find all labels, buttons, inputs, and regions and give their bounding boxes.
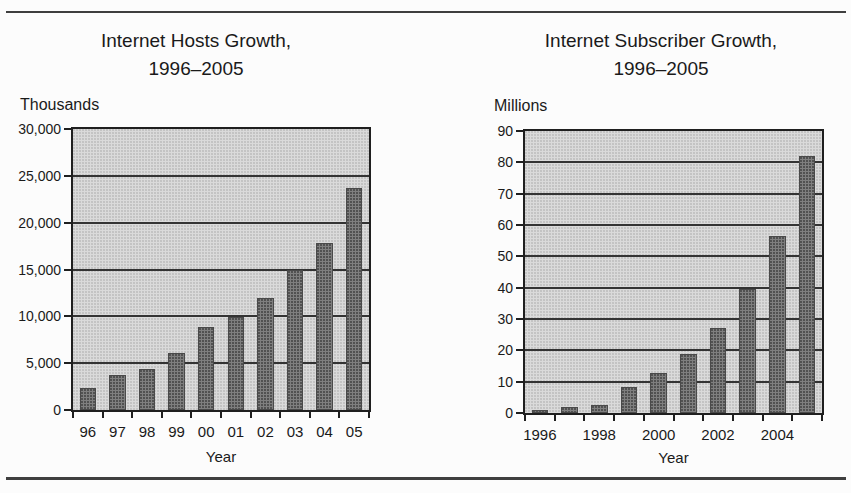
x-tick-label: 2004	[748, 427, 808, 443]
y-tick-mark	[516, 318, 523, 320]
bar-2005	[799, 156, 816, 413]
chart-title-line-1: Internet Hosts Growth,	[31, 27, 361, 55]
bar-1996	[532, 410, 549, 413]
bar-1997	[561, 407, 578, 413]
y-tick-label: 20	[453, 342, 513, 358]
y-tick-mark	[64, 409, 71, 411]
chart-title: Internet Subscriber Growth, 1996–2005	[496, 27, 826, 83]
x-axis-title: Year	[71, 449, 371, 465]
x-tick-mark	[554, 415, 556, 421]
bar-2000	[650, 373, 667, 413]
y-tick-label: 10,000	[1, 308, 61, 324]
y-tick-label: 30,000	[1, 121, 61, 137]
x-tick-label: 2000	[629, 427, 689, 443]
y-tick-mark	[64, 175, 71, 177]
y-axis-unit-label: Millions	[494, 97, 547, 115]
hosts-growth-chart: Internet Hosts Growth, 1996–2005 Thousan…	[0, 0, 426, 493]
bar-2003	[739, 289, 756, 413]
bar-97	[109, 375, 126, 410]
plot-area	[71, 127, 371, 412]
x-tick-mark	[72, 412, 74, 418]
y-tick-label: 5,000	[1, 355, 61, 371]
x-tick-mark	[368, 412, 370, 418]
y-tick-label: 15,000	[1, 262, 61, 278]
y-tick-mark	[516, 161, 523, 163]
chart-title-line-1: Internet Subscriber Growth,	[496, 27, 826, 55]
x-tick-mark	[220, 412, 222, 418]
y-tick-label: 30	[453, 311, 513, 327]
bar-99	[168, 353, 185, 410]
bar-02	[257, 298, 274, 410]
x-tick-mark	[643, 415, 645, 421]
bar-96	[80, 388, 97, 410]
x-tick-label: 1998	[569, 427, 629, 443]
bar-2004	[769, 236, 786, 413]
y-tick-mark	[516, 381, 523, 383]
x-tick-mark	[102, 412, 104, 418]
bar-98	[139, 369, 156, 410]
x-tick-mark	[702, 415, 704, 421]
y-tick-mark	[516, 224, 523, 226]
y-tick-mark	[516, 193, 523, 195]
y-tick-label: 40	[453, 280, 513, 296]
chart-title-line-2: 1996–2005	[31, 55, 361, 83]
plot-area	[523, 129, 824, 415]
x-tick-label: 1996	[510, 427, 570, 443]
y-tick-mark	[516, 130, 523, 132]
chart-title-line-2: 1996–2005	[496, 55, 826, 83]
x-tick-mark	[524, 415, 526, 421]
x-tick-mark	[821, 415, 823, 421]
y-tick-label: 0	[453, 405, 513, 421]
y-tick-mark	[64, 362, 71, 364]
figure: Internet Hosts Growth, 1996–2005 Thousan…	[0, 0, 851, 493]
x-tick-mark	[791, 415, 793, 421]
y-tick-label: 10	[453, 374, 513, 390]
y-tick-mark	[64, 128, 71, 130]
y-tick-label: 25,000	[1, 168, 61, 184]
y-tick-label: 50	[453, 248, 513, 264]
x-tick-mark	[279, 412, 281, 418]
gridline	[73, 222, 369, 224]
y-tick-mark	[64, 222, 71, 224]
y-tick-mark	[516, 349, 523, 351]
bar-2001	[680, 354, 697, 413]
bar-04	[316, 243, 333, 410]
bar-00	[198, 327, 215, 410]
x-tick-mark	[583, 415, 585, 421]
x-tick-mark	[309, 412, 311, 418]
y-tick-label: 80	[453, 154, 513, 170]
y-tick-label: 70	[453, 186, 513, 202]
x-tick-mark	[250, 412, 252, 418]
y-tick-mark	[516, 412, 523, 414]
gridline	[525, 193, 822, 195]
y-tick-label: 0	[1, 402, 61, 418]
x-tick-mark	[338, 412, 340, 418]
subscriber-growth-chart: Internet Subscriber Growth, 1996–2005 Mi…	[425, 0, 851, 493]
x-tick-mark	[762, 415, 764, 421]
x-tick-label: 05	[324, 424, 384, 440]
y-tick-mark	[64, 315, 71, 317]
gridline	[73, 175, 369, 177]
x-tick-label: 2002	[688, 427, 748, 443]
y-tick-label: 60	[453, 217, 513, 233]
bar-1999	[621, 387, 638, 413]
x-tick-mark	[161, 412, 163, 418]
gridline	[525, 161, 822, 163]
x-tick-mark	[131, 412, 133, 418]
x-axis-title: Year	[523, 450, 824, 466]
y-axis-unit-label: Thousands	[20, 96, 99, 114]
y-tick-label: 20,000	[1, 215, 61, 231]
bar-2002	[710, 328, 727, 413]
y-tick-mark	[516, 287, 523, 289]
bar-03	[287, 270, 304, 410]
bar-05	[346, 188, 363, 410]
x-tick-mark	[613, 415, 615, 421]
chart-title: Internet Hosts Growth, 1996–2005	[31, 27, 361, 83]
bar-01	[228, 317, 245, 410]
x-tick-mark	[732, 415, 734, 421]
x-tick-mark	[673, 415, 675, 421]
y-tick-label: 90	[453, 123, 513, 139]
gridline	[525, 224, 822, 226]
y-tick-mark	[516, 255, 523, 257]
bar-1998	[591, 405, 608, 413]
